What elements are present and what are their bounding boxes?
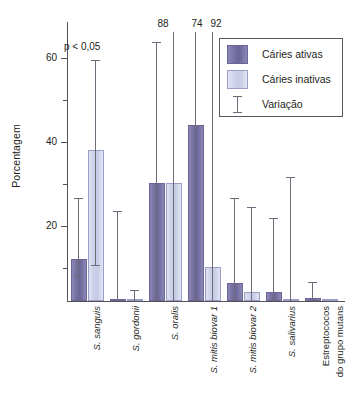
y-tick-20 — [61, 226, 67, 227]
bar-s-mitis-biovar-2-ativas — [227, 283, 243, 301]
x-label-estreptococos-mutans-line2: do grupo mutans — [334, 306, 345, 377]
bar-s-sanguis-ativas — [71, 259, 87, 301]
x-label-s-salivarius: S. salivarius — [286, 306, 297, 357]
errorbar-s-mitis-biovar-1-ativas — [195, 32, 196, 301]
legend-swatch-caries-ativas — [227, 45, 248, 64]
value-annotation-88: 88 — [151, 18, 175, 29]
y-tick-10 — [63, 268, 67, 269]
errorbar-cap-bottom-s-sanguis-inativas — [91, 265, 100, 266]
bar-estreptococos-mutans-ativas — [305, 298, 321, 301]
x-label-estreptococos-mutans: Estreptococos — [320, 306, 331, 366]
bar-s-mitis-biovar-1-ativas — [188, 125, 204, 301]
errorbar-cap-top-s-mitis-biovar-2-inativas — [247, 207, 256, 208]
errorbar-icon — [227, 95, 248, 114]
errorbar-cap-top-s-oralis-ativas — [152, 42, 161, 43]
x-label-estreptococos-mutans-line1: Estreptococos — [320, 306, 331, 366]
errorbar-cap-top-s-sanguis-inativas — [91, 60, 100, 61]
errorbar-s-salivarius-ativas — [273, 218, 274, 301]
errorbar-s-gordonii-ativas — [117, 211, 118, 301]
y-tick-60 — [61, 58, 67, 59]
errorbar-estreptococos-mutans-ativas — [312, 282, 313, 301]
errorbar-s-mitis-biovar-2-inativas — [251, 207, 252, 301]
x-label-s-gordonii: S. gordonii — [130, 306, 141, 351]
bar-s-mitis-biovar-1-inativas — [205, 267, 221, 301]
y-axis-line — [67, 22, 68, 302]
value-annotation-92: 92 — [205, 18, 227, 29]
bar-s-mitis-biovar-2-inativas — [244, 292, 260, 301]
x-label-s-mitis-biovar-2: S. mitis biovar 2 — [247, 306, 258, 374]
errorbar-s-sanguis-inativas — [95, 60, 96, 266]
bar-s-sanguis-inativas — [88, 150, 104, 301]
bar-s-salivarius-inativas — [283, 299, 299, 301]
errorbar-s-sanguis-ativas — [78, 198, 79, 276]
errorbar-cap-top-s-mitis-biovar-2-ativas — [230, 198, 239, 199]
errorbar-s-gordonii-inativas — [134, 290, 135, 301]
legend-item-caries-inativas: Cáries inativas — [227, 68, 331, 90]
errorbar-s-salivarius-inativas — [290, 177, 291, 301]
x-label-s-oralis: S. oralis — [169, 306, 180, 340]
bar-s-oralis-ativas — [149, 183, 165, 301]
errorbar-cap-bottom-s-sanguis-ativas — [74, 276, 83, 277]
chart-figure: Porcentagem 60 40 20 p < 0,05 88 74 92 — [0, 0, 351, 412]
x-label-s-mitis-biovar-1: S. mitis biovar 1 — [208, 306, 219, 374]
y-tick-label-40: 40 — [31, 137, 57, 147]
legend-swatch-caries-inativas — [227, 70, 248, 89]
errorbar-cap-top-s-salivarius-ativas — [269, 218, 278, 219]
legend-item-variacao: Variação — [227, 93, 303, 115]
bar-s-gordonii-inativas — [127, 299, 143, 301]
legend: Cáries ativas Cáries inativas Variação — [219, 38, 343, 117]
x-label-estreptococos-mutans-line2-wrap: do grupo mutans — [334, 306, 345, 377]
errorbar-s-oralis-ativas — [156, 42, 157, 301]
y-tick-30 — [63, 184, 67, 185]
errorbar-s-oralis-inativas — [173, 32, 174, 301]
legend-item-caries-ativas: Cáries ativas — [227, 43, 323, 65]
legend-label-caries-inativas: Cáries inativas — [262, 73, 331, 85]
errorbar-cap-top-s-gordonii-ativas — [113, 211, 122, 212]
errorbar-s-mitis-biovar-1-inativas — [212, 32, 213, 301]
y-axis-title: Porcentagem — [10, 96, 22, 216]
y-tick-40 — [61, 142, 67, 143]
errorbar-cap-top-s-salivarius-inativas — [286, 177, 295, 178]
errorbar-cap-top-s-sanguis-ativas — [74, 198, 83, 199]
bar-s-gordonii-ativas — [110, 299, 126, 301]
legend-label-variacao: Variação — [262, 98, 303, 110]
bar-s-salivarius-ativas — [266, 292, 282, 301]
x-label-s-sanguis: S. sanguis — [91, 306, 102, 350]
bar-s-oralis-inativas — [166, 183, 182, 301]
legend-label-caries-ativas: Cáries ativas — [262, 48, 323, 60]
x-axis-line — [67, 301, 345, 302]
y-tick-50 — [63, 100, 67, 101]
errorbar-cap-top-estreptococos-mutans-ativas — [308, 282, 317, 283]
errorbar-s-mitis-biovar-2-ativas — [234, 198, 235, 301]
y-tick-label-60: 60 — [31, 53, 57, 63]
y-tick-label-20: 20 — [31, 221, 57, 231]
p-value-annotation: p < 0,05 — [64, 41, 100, 52]
bar-estreptococos-mutans-inativas — [322, 299, 338, 301]
errorbar-cap-top-s-gordonii-inativas — [130, 290, 139, 291]
